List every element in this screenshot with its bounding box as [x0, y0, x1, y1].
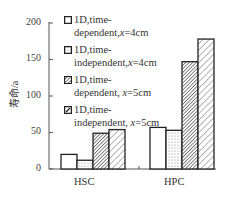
y-tick-label: 50	[21, 125, 41, 136]
y-tick-label: 100	[21, 89, 41, 100]
legend-item: 1D,time-independent,x=4cm	[64, 43, 224, 73]
legend-label: 1D,time-dependent,x=4cm	[74, 13, 148, 39]
legend-swatch-sparse-hatch-icon	[64, 106, 72, 114]
legend: 1D,time-dependent,x=4cm 1D,time-independ…	[64, 13, 224, 133]
legend-label: 1D,time-dependent, x=5cm	[74, 73, 151, 99]
bar-hsc-sparse-hatch	[109, 130, 125, 169]
x-category-hpc: HPC	[164, 176, 184, 187]
bar-hpc-white	[150, 127, 166, 169]
bar-hpc-dotted	[166, 130, 182, 169]
legend-swatch-dotted-icon	[64, 46, 72, 54]
legend-swatch-dense-hatch-icon	[64, 76, 72, 84]
legend-item: 1D,time-independent, x=5cm	[64, 103, 224, 133]
legend-item: 1D,time-dependent,x=4cm	[64, 13, 224, 43]
x-category-hsc: HSC	[74, 176, 94, 187]
legend-swatch-white-icon	[64, 16, 72, 24]
bar-hsc-dotted	[77, 160, 93, 169]
y-axis-label: 寿命/a	[6, 81, 21, 108]
y-tick-label: 200	[21, 16, 41, 27]
legend-item: 1D,time-dependent, x=5cm	[64, 73, 224, 103]
y-tick-label: 0	[21, 162, 41, 173]
legend-label: 1D,time-independent, x=5cm	[74, 103, 159, 129]
bar-hsc-white	[61, 154, 77, 169]
y-tick-label: 150	[21, 52, 41, 63]
bar-hsc-dense-hatch	[93, 133, 109, 169]
legend-label: 1D,time-independent,x=4cm	[74, 43, 157, 69]
